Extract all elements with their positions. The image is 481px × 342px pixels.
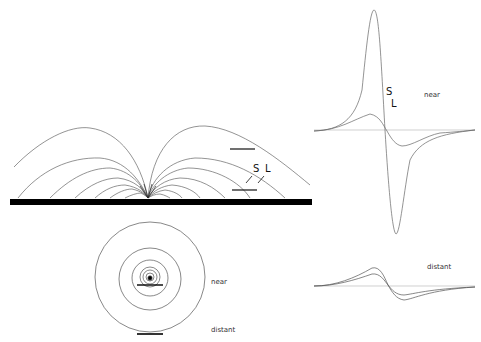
waveform-near-panel	[314, 10, 475, 234]
label-distant-wave: distant	[427, 263, 451, 271]
concentric-field-panel	[95, 222, 205, 334]
label-near-wave: near	[424, 91, 440, 99]
label-s-wave: S	[386, 86, 392, 97]
label-l-wave: L	[391, 98, 397, 109]
waveform-distant-panel	[314, 268, 475, 300]
label-distant-concentric: distant	[211, 326, 235, 334]
label-s-field: S	[253, 163, 259, 174]
diagram-canvas	[0, 0, 481, 342]
conductor-bar	[10, 199, 312, 205]
label-l-field: L	[265, 163, 271, 174]
label-near-concentric: near	[211, 278, 227, 286]
